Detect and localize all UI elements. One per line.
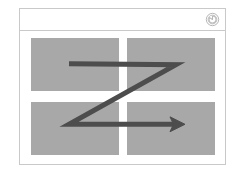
- wireframe-card: [19, 8, 226, 165]
- content-area: [20, 31, 225, 164]
- placeholder-block-bottom-left[interactable]: [31, 102, 119, 155]
- placeholder-block-top-right[interactable]: [127, 38, 215, 91]
- screenshot-root: [0, 0, 245, 176]
- refresh-spiral-icon[interactable]: [205, 12, 220, 27]
- placeholder-block-bottom-right[interactable]: [127, 102, 215, 155]
- placeholder-block-top-left[interactable]: [31, 38, 119, 91]
- header-bar: [20, 9, 225, 31]
